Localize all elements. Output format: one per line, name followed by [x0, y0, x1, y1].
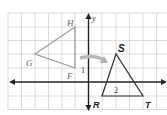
triangle-ghf	[35, 27, 75, 68]
vertex-label-r: R	[93, 100, 100, 110]
y-axis-up-arrow-icon	[86, 13, 92, 19]
vertex-label-h: H	[66, 18, 74, 28]
angle-label-2: 2	[114, 86, 118, 95]
triangle-rst	[102, 54, 143, 96]
x-axis-left-arrow-icon	[9, 79, 15, 85]
vertex-label-t: T	[145, 100, 152, 110]
y-axis-label: y	[91, 14, 96, 23]
angle-label-1: 1	[81, 66, 85, 75]
y-axis-down-arrow-icon	[86, 105, 92, 111]
transformation-arrow-icon	[80, 56, 104, 60]
vertex-label-s: S	[118, 43, 125, 54]
vertex-label-f: F	[66, 71, 73, 81]
vertex-label-g: G	[26, 58, 33, 68]
x-axis-right-arrow-icon	[161, 79, 167, 85]
coordinate-plane-diagram: y H G F S R T 1 2	[0, 0, 167, 115]
